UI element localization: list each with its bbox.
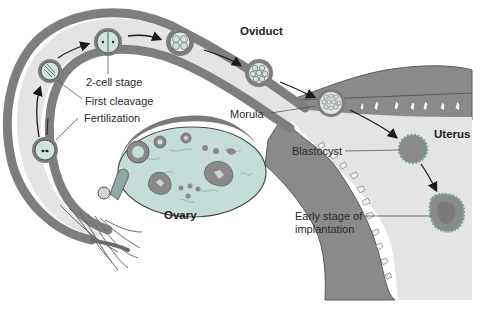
ovary bbox=[98, 116, 268, 217]
stage-implantation bbox=[430, 194, 464, 231]
label-morula: Morula bbox=[230, 108, 264, 120]
stage-two-cell bbox=[94, 28, 122, 56]
label-two-cell-stage: 2-cell stage bbox=[86, 76, 142, 88]
stage-four-cell bbox=[166, 28, 194, 56]
label-ovary: Ovary bbox=[164, 209, 197, 221]
stage-morula bbox=[317, 89, 345, 117]
label-first-cleavage: First cleavage bbox=[85, 95, 153, 107]
stage-eight-cell bbox=[245, 59, 273, 87]
label-blastocyst: Blastocyst bbox=[292, 145, 342, 157]
embryo-development-diagram: Oviduct Uterus Ovary 2-cell stage First … bbox=[0, 0, 481, 319]
label-fertilization: Fertilization bbox=[84, 112, 140, 124]
stage-first-cleavage bbox=[38, 59, 62, 83]
stage-blastocyst bbox=[399, 135, 427, 163]
diagram-canvas bbox=[0, 0, 481, 319]
label-implantation-line2: implantation bbox=[295, 223, 354, 235]
label-uterus: Uterus bbox=[434, 128, 470, 140]
label-implantation-line1: Early stage of bbox=[295, 210, 362, 222]
label-oviduct: Oviduct bbox=[240, 25, 283, 37]
